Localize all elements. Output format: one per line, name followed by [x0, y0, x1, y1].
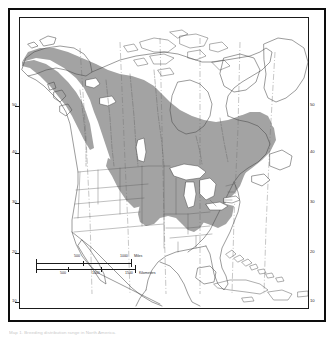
scale-bar-miles-line — [36, 263, 132, 264]
lat-label-left-10: 10 — [12, 299, 16, 303]
lake-winnipeg — [136, 138, 146, 162]
scale-bar-km-label-500: 500 — [60, 272, 66, 276]
lat-label-right-10: 10 — [310, 299, 314, 303]
scale-bar-miles-unit: Miles — [134, 255, 142, 259]
outline-alaska-islands — [40, 36, 56, 46]
scale-bar-km-unit: Kilometers — [139, 272, 155, 276]
outline-cuba — [214, 280, 268, 294]
lat-label-left-40: 40 — [12, 150, 16, 154]
outline-jamaica — [242, 297, 254, 302]
outline-arctic-islands — [124, 30, 230, 76]
range-map-figure: 50 40 30 20 10 50 40 30 20 10 — [0, 0, 332, 343]
lat-label-left-30: 30 — [12, 200, 16, 204]
lat-label-right-50: 50 — [310, 103, 314, 107]
outline-greenland — [264, 38, 308, 102]
lat-label-right-30: 30 — [310, 200, 314, 204]
scale-bar-miles-label-1000: 1000 — [120, 255, 128, 259]
outline-newfoundland — [270, 150, 292, 170]
lat-label-right-20: 20 — [310, 250, 314, 254]
scale-bar-km-label-1500: 1500 — [125, 272, 133, 276]
lat-label-left-50: 50 — [12, 103, 16, 107]
outline-gulf-coast — [146, 246, 206, 290]
scale-bar-km-tick-500 — [68, 267, 69, 272]
scale-bar-miles-tick-500 — [83, 261, 84, 266]
scale-bar-km-tick-1500 — [135, 265, 136, 273]
scale-bar-km-line — [36, 269, 136, 270]
outline-baffin-island — [220, 54, 260, 92]
map-inner-frame: 500 1000 Miles 500 1000 1500 Kilometers — [19, 17, 309, 309]
outline-hispaniola — [268, 290, 292, 300]
scale-bar-km-tick-1000 — [101, 267, 102, 272]
range-shading-group — [22, 48, 276, 232]
outline-puerto-rico — [298, 291, 308, 297]
lat-label-left-20: 20 — [12, 250, 16, 254]
figure-caption: Map 1. Breeding distribution range in No… — [9, 330, 309, 336]
scale-bar-km-tick-0 — [36, 265, 37, 273]
lat-label-right-40: 40 — [310, 150, 314, 154]
scale-bar: 500 1000 Miles 500 1000 1500 Kilometers — [34, 254, 154, 278]
scale-bar-miles-label-500: 500 — [74, 255, 80, 259]
scale-bar-miles-tick-1000 — [131, 259, 132, 267]
outline-caribbean — [214, 250, 308, 302]
scale-bar-km-label-1000: 1000 — [92, 272, 100, 276]
